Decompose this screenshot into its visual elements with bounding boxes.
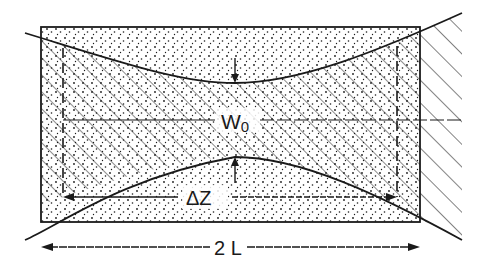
beam-exit-region [420,13,462,240]
beam-diagram: W0 ΔZ 2 L [0,0,489,265]
two-l-label: 2 L [214,237,242,259]
delta-z-label: ΔZ [186,187,212,209]
